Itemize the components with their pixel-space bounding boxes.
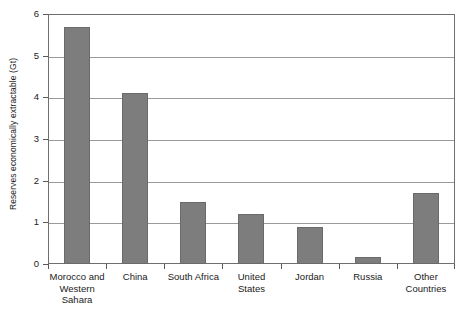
- bar-slot: [164, 14, 222, 264]
- x-axis-label: Jordan: [281, 271, 339, 283]
- bar-slot: [48, 14, 106, 264]
- bar-slot: [106, 14, 164, 264]
- x-axis-label-line: China: [106, 271, 164, 283]
- x-axis-label-line: States: [222, 283, 280, 295]
- x-axis-label-line: United: [222, 271, 280, 283]
- y-axis-tick-label: 4: [34, 91, 39, 102]
- y-axis-tick: 6: [0, 14, 48, 15]
- y-axis-tick-label: 2: [34, 175, 39, 186]
- y-axis-tick: 5: [0, 56, 48, 57]
- y-axis-tick-label: 1: [34, 216, 39, 227]
- x-axis-label-line: South Africa: [164, 271, 222, 283]
- bar[interactable]: [180, 202, 206, 265]
- y-axis-tick: 1: [0, 222, 48, 223]
- y-axis-tick: 0: [0, 264, 48, 265]
- bars-layer: [48, 14, 455, 264]
- x-axis-label: Russia: [339, 271, 397, 283]
- bar[interactable]: [238, 214, 264, 264]
- x-axis-label-line: Morocco and: [48, 271, 106, 283]
- x-axis-ticks: [48, 264, 455, 270]
- x-axis-label: South Africa: [164, 271, 222, 283]
- x-axis-tick-mark: [222, 264, 223, 269]
- y-axis-tick-label: 5: [34, 50, 39, 61]
- x-axis-label: Morocco andWesternSahara: [48, 271, 106, 306]
- y-axis-tick: 3: [0, 139, 48, 140]
- x-axis-tick-mark: [164, 264, 165, 269]
- bar-chart: Reserves economically extractable (Gt) 0…: [0, 0, 466, 315]
- x-axis-label: UnitedStates: [222, 271, 280, 294]
- x-axis-tick-mark: [339, 264, 340, 269]
- x-axis-label-line: Other: [397, 271, 455, 283]
- x-axis-tick-mark: [48, 264, 49, 269]
- x-axis-label: OtherCountries: [397, 271, 455, 294]
- bar[interactable]: [413, 193, 439, 264]
- y-axis-tick-label: 6: [34, 8, 39, 19]
- x-axis-label-line: Countries: [397, 283, 455, 295]
- x-axis-label: China: [106, 271, 164, 283]
- x-axis-tick-mark: [106, 264, 107, 269]
- bar-slot: [222, 14, 280, 264]
- bar[interactable]: [122, 93, 148, 264]
- x-axis-tick-mark: [397, 264, 398, 269]
- x-axis-tick-mark: [454, 264, 455, 269]
- x-axis-label-line: Russia: [339, 271, 397, 283]
- y-axis-tick-label: 3: [34, 133, 39, 144]
- x-axis-label-line: Sahara: [48, 294, 106, 306]
- bar[interactable]: [64, 27, 90, 265]
- y-axis-ticks: 0123456: [0, 0, 48, 315]
- y-axis-tick: 4: [0, 97, 48, 98]
- x-axis-labels: Morocco andWesternSaharaChinaSouth Afric…: [48, 271, 455, 315]
- x-axis-tick-mark: [281, 264, 282, 269]
- bar-slot: [281, 14, 339, 264]
- x-axis-label-line: Western: [48, 283, 106, 295]
- bar[interactable]: [297, 227, 323, 264]
- y-axis-tick-label: 0: [34, 258, 39, 269]
- bar-slot: [397, 14, 455, 264]
- bar[interactable]: [355, 257, 381, 265]
- bar-slot: [339, 14, 397, 264]
- y-axis-tick: 2: [0, 181, 48, 182]
- x-axis-label-line: Jordan: [281, 271, 339, 283]
